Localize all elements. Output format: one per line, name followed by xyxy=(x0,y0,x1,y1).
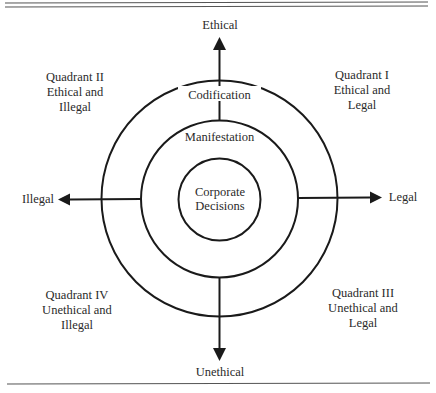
ring-label-codification: Codification xyxy=(175,88,264,102)
axis-label-legal: Legal xyxy=(386,190,420,204)
axis-right-line xyxy=(298,198,370,199)
quadrant-2-line3: Illegal xyxy=(15,100,135,115)
quadrant-3-title: Quadrant III xyxy=(303,286,423,301)
quadrant-2-label: Quadrant II Ethical and Illegal xyxy=(15,70,135,115)
bottom-rule xyxy=(7,383,430,384)
top-rule-1 xyxy=(5,2,428,3)
quadrant-4-line2: Unethical and xyxy=(17,303,137,318)
arrow-down-icon xyxy=(213,348,226,361)
axis-label-ethical: Ethical xyxy=(199,18,241,32)
quadrant-4-title: Quadrant IV xyxy=(17,288,137,303)
arrow-right-icon xyxy=(370,192,382,204)
inner-label-line1: Corporate xyxy=(180,185,260,199)
quadrant-3-line3: Legal xyxy=(303,316,423,331)
top-rule-2 xyxy=(5,6,428,7)
quadrant-3-line2: Unethical and xyxy=(303,301,423,316)
axis-left-line xyxy=(70,199,141,200)
arrow-left-icon xyxy=(58,194,70,206)
quadrant-1-title: Quadrant I xyxy=(302,68,422,83)
axis-label-illegal: Illegal xyxy=(20,192,56,206)
quadrant-2-title: Quadrant II xyxy=(15,70,135,85)
arrow-up-icon xyxy=(213,37,226,50)
quadrant-1-line3: Legal xyxy=(302,98,422,113)
quadrant-3-label: Quadrant III Unethical and Legal xyxy=(303,286,423,331)
axis-label-unethical: Unethical xyxy=(189,365,251,379)
quadrant-2-line2: Ethical and xyxy=(15,85,135,100)
quadrant-1-label: Quadrant I Ethical and Legal xyxy=(302,68,422,113)
quadrant-4-line3: Illegal xyxy=(17,318,137,333)
quadrant-1-line2: Ethical and xyxy=(302,83,422,98)
quadrant-4-label: Quadrant IV Unethical and Illegal xyxy=(17,288,137,333)
inner-label-line2: Decisions xyxy=(180,199,260,213)
ring-label-manifestation: Manifestation xyxy=(170,130,269,144)
